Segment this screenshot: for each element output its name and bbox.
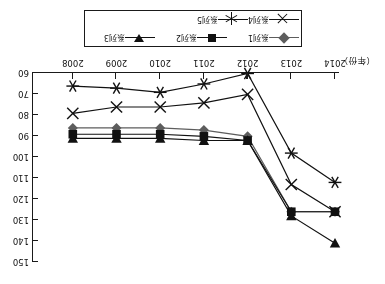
x-tick-label-2013: 2013 (280, 58, 302, 68)
y-tick-label-150: 150 (13, 257, 29, 267)
legend-item-label: 系列2 (176, 33, 197, 42)
series-系列3 (68, 133, 341, 247)
y-tick-70 (32, 93, 38, 94)
legend-marker-x-cross (269, 14, 299, 26)
y-tick-150 (32, 261, 38, 262)
y-tick-label-130: 130 (13, 215, 29, 225)
legend-item-label: 系列3 (104, 33, 125, 42)
legend-row-top: 系列1系列2系列3 (83, 29, 301, 47)
y-tick-label-80: 80 (18, 110, 29, 120)
y-tick-80 (32, 114, 38, 115)
legend-item-系列4[interactable]: 系列4 (248, 11, 299, 28)
y-tick-label-140: 140 (13, 236, 29, 246)
legend: 系列1系列2系列3 系列4系列5 (84, 10, 302, 47)
data-point-marker-x-cross (242, 89, 253, 100)
data-point-marker-six-point-star (66, 81, 79, 92)
series-line (73, 138, 335, 243)
y-tick-label-60: 60 (18, 69, 29, 79)
data-point-marker-six-point-star (154, 87, 167, 98)
x-tick-2011 (203, 73, 204, 79)
data-point-marker-six-point-star (285, 148, 298, 159)
data-point-marker-triangle-down (330, 238, 340, 248)
data-point-marker-six-point-star (110, 83, 123, 94)
x-tick-label-2011: 2011 (193, 58, 215, 68)
y-tick-60 (32, 72, 38, 73)
series-line (73, 134, 335, 211)
x-tick-2013 (290, 73, 291, 79)
y-tick-label-120: 120 (13, 194, 29, 204)
y-tick-label-90: 90 (18, 131, 29, 141)
y-tick-130 (32, 219, 38, 220)
y-tick-100 (32, 156, 38, 157)
legend-item-label: 系列1 (248, 33, 269, 42)
y-tick-110 (32, 177, 38, 178)
y-tick-label-100: 100 (13, 152, 29, 162)
legend-marker-triangle-down (125, 32, 155, 44)
legend-row-bottom: 系列4系列5 (85, 11, 301, 29)
x-tick-2014 (334, 73, 335, 79)
y-tick-label-70: 70 (18, 89, 29, 99)
x-tick-2008 (72, 73, 73, 79)
series-系列4 (67, 89, 340, 217)
x-axis-unit-label: （年份） (339, 56, 375, 68)
legend-marker-diamond (269, 32, 299, 44)
x-tick-2012 (246, 73, 247, 79)
y-tick-label-110: 110 (13, 173, 29, 183)
legend-item-系列1[interactable]: 系列1 (227, 29, 299, 46)
data-point-marker-x-cross (286, 179, 297, 190)
x-tick-label-2010: 2010 (149, 58, 171, 68)
x-tick-label-2009: 2009 (106, 58, 128, 68)
data-point-marker-six-point-star (329, 177, 342, 188)
legend-item-系列5[interactable]: 系列5 (197, 11, 248, 28)
y-tick-90 (32, 135, 38, 136)
x-tick-2009 (115, 73, 116, 79)
legend-item-label: 系列5 (197, 15, 218, 24)
x-tick-label-2008: 2008 (62, 58, 84, 68)
data-point-marker-six-point-star (198, 78, 211, 89)
legend-marker-square (197, 32, 227, 44)
x-tick-label-2012: 2012 (237, 58, 259, 68)
y-tick-120 (32, 198, 38, 199)
legend-item-系列2[interactable]: 系列2 (155, 29, 227, 46)
x-tick-2010 (159, 73, 160, 79)
chart-figure: 2014201320122011201020092008 60708090100… (0, 0, 385, 284)
legend-item-label: 系列4 (248, 15, 269, 24)
y-tick-140 (32, 240, 38, 241)
legend-item-系列3[interactable]: 系列3 (83, 29, 155, 46)
legend-marker-six-point-star (218, 14, 248, 26)
